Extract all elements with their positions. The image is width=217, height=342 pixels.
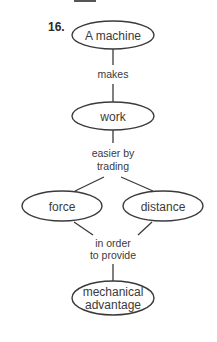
link-order-1: in order: [95, 237, 131, 249]
node-force-label: force: [49, 200, 76, 214]
link-makes: makes: [98, 68, 129, 80]
link-easier-2: trading: [97, 160, 129, 172]
top-fragment: [74, 0, 96, 2]
node-machine-label: A machine: [85, 29, 141, 43]
node-advantage-label: advantage: [85, 298, 141, 312]
question-number: 16.: [48, 20, 65, 34]
link-order-2: to provide: [90, 249, 136, 261]
link-easier-1: easier by: [92, 147, 135, 159]
node-mechanical-label: mechanical: [83, 285, 144, 299]
node-distance-label: distance: [141, 200, 186, 214]
node-work-label: work: [99, 110, 126, 124]
concept-map: 16. A machine work force distance mechan…: [0, 0, 217, 342]
